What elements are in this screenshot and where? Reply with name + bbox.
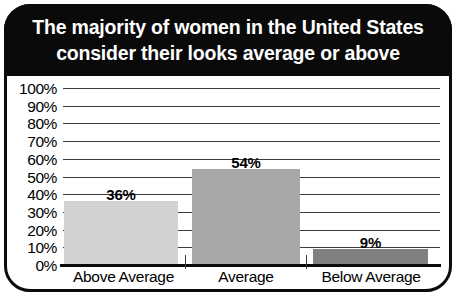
gridline-100: [63, 88, 440, 89]
y-axis-tick-10: 10%: [0, 240, 57, 255]
x-axis-tick-2: [306, 255, 307, 269]
x-axis-baseline: [60, 264, 441, 267]
y-axis-tick-50: 50%: [0, 170, 57, 185]
bar-average: [192, 169, 300, 265]
x-axis-label-above-average: Above Average: [62, 268, 185, 286]
y-axis-tick-100: 100%: [0, 81, 57, 96]
bar-below-average: [313, 249, 428, 265]
chart-title-banner: The majority of women in the United Stat…: [4, 4, 452, 76]
value-label-average: 54%: [192, 154, 300, 171]
gridline-70: [63, 141, 440, 142]
y-axis-tick-70: 70%: [0, 134, 57, 149]
gridline-90: [63, 106, 440, 107]
y-axis-tick-0: 0%: [0, 258, 57, 273]
chart-title-line-2: consider their looks average or above: [56, 40, 400, 66]
chart-screenshot: The majority of women in the United Stat…: [0, 0, 460, 300]
bar-above-average: [64, 201, 178, 265]
y-axis-tick-20: 20%: [0, 223, 57, 238]
y-axis-tick-30: 30%: [0, 205, 57, 220]
y-axis-tick-60: 60%: [0, 152, 57, 167]
y-axis-tick-80: 80%: [0, 116, 57, 131]
y-axis-tick-40: 40%: [0, 187, 57, 202]
x-axis-label-average: Average: [186, 268, 306, 286]
x-axis-label-below-average: Below Average: [307, 268, 435, 286]
value-label-above-average: 36%: [64, 186, 178, 203]
chart-title-line-1: The majority of women in the United Stat…: [32, 14, 423, 40]
y-axis-tick-90: 90%: [0, 99, 57, 114]
gridline-80: [63, 123, 440, 124]
value-label-below-average: 9%: [313, 234, 428, 251]
x-axis-tick-1: [185, 255, 186, 269]
